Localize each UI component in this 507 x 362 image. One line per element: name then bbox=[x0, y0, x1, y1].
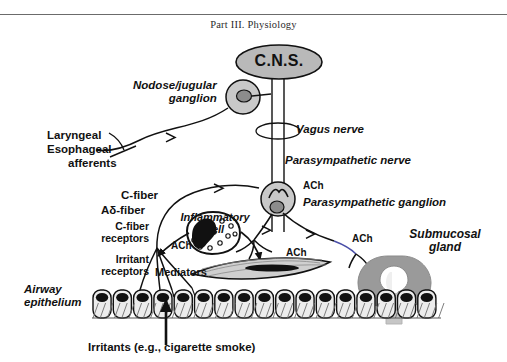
irritant-receptors-line2: receptors bbox=[101, 265, 149, 277]
laryngeal-esophageal-connector bbox=[109, 133, 136, 157]
laryngeal-label: Laryngeal bbox=[47, 129, 101, 142]
c-fiber-label: C-fiber bbox=[121, 189, 158, 202]
vagus-nerve-label: Vagus nerve bbox=[296, 123, 364, 136]
submucosal-gland-label: Submucosalgland bbox=[404, 228, 486, 255]
airway-epithelium-row bbox=[92, 290, 444, 318]
esophageal-label: Esophageal bbox=[47, 143, 112, 156]
submucosal-gland-line1: Submucosal bbox=[409, 227, 480, 241]
epithelial-cell-nucleus bbox=[96, 293, 108, 302]
epithelial-cell-nucleus bbox=[136, 293, 148, 302]
figure-page: Part III. Physiology bbox=[0, 0, 507, 362]
nodose-ganglion-label-line2: ganglion bbox=[133, 92, 217, 105]
epithelial-cell-nucleus bbox=[319, 293, 331, 302]
c-fiber-receptors-label: C-fiberreceptors bbox=[85, 221, 149, 245]
epithelial-cell-nucleus bbox=[197, 293, 209, 302]
afferents-label: afferents bbox=[68, 157, 117, 170]
epithelial-cell-nucleus bbox=[218, 293, 230, 302]
c-fiber-receptors-line2: receptors bbox=[101, 232, 149, 244]
epithelial-cell-nucleus bbox=[299, 293, 311, 302]
airway-epithelium-line2: epithelium bbox=[24, 296, 82, 308]
parasympathetic-ganglion-node bbox=[261, 182, 295, 216]
epithelial-cell-nucleus bbox=[339, 293, 351, 302]
airway-epithelium-label: Airwayepithelium bbox=[24, 283, 82, 309]
submucosal-gland-line2: gland bbox=[429, 240, 461, 254]
ach-muscle-label: ACh bbox=[171, 240, 192, 251]
epithelial-cell-nucleus bbox=[258, 293, 270, 302]
epithelial-cell-nucleus bbox=[177, 293, 189, 302]
ach-gland-label: ACh bbox=[352, 233, 373, 244]
nodose-ganglion-label: Nodose/jugularganglion bbox=[133, 79, 217, 105]
epithelial-cell-nucleus bbox=[116, 293, 128, 302]
nodose-ganglion-label-line1: Nodose/jugular bbox=[133, 79, 217, 91]
epithelial-cell-nucleus bbox=[360, 293, 372, 302]
irritants-label: Irritants (e.g., cigarette smoke) bbox=[88, 341, 255, 354]
nodose-jugular-ganglion-node bbox=[226, 80, 271, 114]
inflammatory-cell-label: Inflammatorycell bbox=[172, 211, 258, 236]
afferent-fiber-path bbox=[96, 108, 228, 151]
epithelial-cell-nucleus bbox=[421, 293, 433, 302]
inflammatory-cell-line1: Inflammatory bbox=[180, 211, 249, 223]
cns-label: C.N.S. bbox=[252, 52, 306, 70]
c-fiber-receptors-line1: C-fiber bbox=[115, 220, 149, 232]
epithelial-cell-nucleus bbox=[279, 293, 291, 302]
parasympathetic-ganglion-label: Parasympathetic ganglion bbox=[303, 196, 446, 209]
mediators-label: Mediators bbox=[155, 266, 207, 278]
epithelial-cell-nucleus bbox=[400, 293, 412, 302]
airway-epithelium-line1: Airway bbox=[24, 283, 62, 295]
ach-ganglion-label: ACh bbox=[303, 180, 324, 191]
basement-membrane-hatch bbox=[439, 303, 444, 318]
ach-muscle-label-2: ACh bbox=[286, 247, 307, 258]
irritant-receptors-line1: Irritant bbox=[116, 253, 149, 265]
irritant-receptors-label: Irritantreceptors bbox=[79, 254, 149, 278]
parasympathetic-nerve-label: Parasympathetic nerve bbox=[285, 154, 411, 167]
epithelial-cell-nucleus bbox=[380, 293, 392, 302]
epithelial-cell-nucleus bbox=[238, 293, 250, 302]
a-delta-fiber-label: Aδ-fiber bbox=[101, 204, 145, 217]
inflammatory-cell-line2: cell bbox=[206, 223, 224, 235]
airway-smooth-muscle bbox=[192, 258, 330, 279]
